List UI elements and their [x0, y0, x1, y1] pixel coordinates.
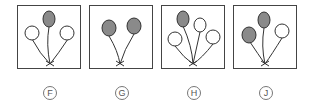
balloons-icon [90, 6, 152, 68]
option-j-box[interactable] [233, 5, 297, 69]
balloons-icon [18, 6, 80, 68]
option-j-label[interactable]: J [259, 86, 273, 100]
option-g-box[interactable] [89, 5, 153, 69]
balloons-icon [234, 6, 296, 68]
balloons-icon [162, 6, 224, 68]
option-f-label[interactable]: F [43, 86, 57, 100]
option-h-box[interactable] [161, 5, 225, 69]
option-g-label[interactable]: G [115, 86, 129, 100]
option-h-label[interactable]: H [187, 86, 201, 100]
option-f-box[interactable] [17, 5, 81, 69]
